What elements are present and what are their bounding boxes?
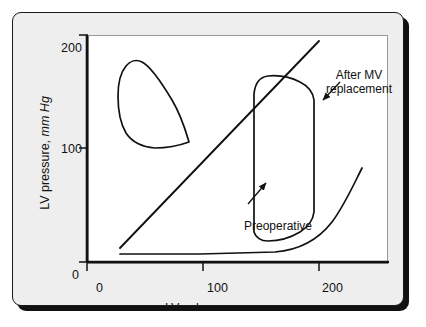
- annotation-after-mv-replacement: After MV replacement: [326, 68, 392, 96]
- pv-loop-figure: LV pressure, mm Hg LV volume, cc 0 100 2…: [0, 0, 426, 327]
- x-tick-label-200: 200: [322, 281, 343, 295]
- x-axis-title: LV volume, cc: [165, 301, 243, 306]
- x-axis-title-main: LV volume,: [165, 301, 230, 306]
- y-tick-label-0: 0: [72, 268, 79, 282]
- x-tick-label-0: 0: [96, 281, 103, 295]
- x-tick-label-100: 100: [207, 281, 228, 295]
- x-axis-title-unit: cc: [230, 301, 243, 306]
- annotation-preoperative: Preoperative: [244, 219, 312, 233]
- y-tick-label-100: 100: [61, 142, 82, 156]
- y-tick-label-200: 200: [61, 41, 82, 55]
- y-axis-title-unit: mm Hg: [38, 96, 52, 136]
- y-axis-title-main: LV pressure,: [38, 136, 52, 209]
- y-axis-title: LV pressure, mm Hg: [38, 83, 52, 223]
- figure-card: LV pressure, mm Hg LV volume, cc 0 100 2…: [12, 12, 404, 306]
